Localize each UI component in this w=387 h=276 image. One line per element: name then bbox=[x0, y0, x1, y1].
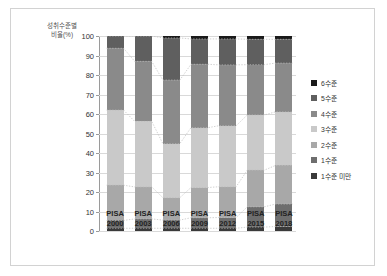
x-axis-label-line: PISA bbox=[265, 209, 303, 219]
legend: 6수준5수준4수준3수준2수준1수준1수준 미만 bbox=[311, 75, 387, 184]
bar-segment[interactable] bbox=[163, 80, 180, 144]
bar-segment[interactable] bbox=[107, 48, 124, 110]
legend-item-label: 1수준 bbox=[321, 155, 337, 165]
legend-swatch-icon bbox=[311, 95, 317, 101]
x-axis-label-line: 2018 bbox=[265, 219, 303, 229]
y-tick-mark bbox=[96, 36, 99, 37]
bar-column[interactable] bbox=[219, 36, 236, 231]
legend-item-label: 5수준 bbox=[321, 93, 337, 103]
y-tick-label: 50 bbox=[86, 129, 94, 138]
bar-segment[interactable] bbox=[275, 39, 292, 63]
bar-segment[interactable] bbox=[219, 126, 236, 187]
y-tick-label: 60 bbox=[86, 110, 94, 119]
bar-segment[interactable] bbox=[275, 165, 292, 204]
bar-segment[interactable] bbox=[191, 36, 208, 39]
bar-column[interactable] bbox=[107, 36, 124, 231]
legend-item[interactable]: 6수준 bbox=[311, 75, 387, 91]
bar-column[interactable] bbox=[275, 36, 292, 231]
y-tick-mark bbox=[96, 153, 99, 154]
bar-segment[interactable] bbox=[275, 36, 292, 39]
bar-column[interactable] bbox=[247, 36, 264, 231]
y-tick-mark bbox=[96, 231, 99, 232]
legend-item-label: 4수준 bbox=[321, 109, 337, 119]
y-tick-label: 10 bbox=[86, 207, 94, 216]
y-tick-mark bbox=[96, 114, 99, 115]
bar-segment[interactable] bbox=[275, 63, 292, 112]
bar-column[interactable] bbox=[191, 36, 208, 231]
bar-segment[interactable] bbox=[219, 39, 236, 65]
y-tick-label: 100 bbox=[81, 32, 94, 41]
bar-segment[interactable] bbox=[163, 36, 180, 38]
y-tick-label: 30 bbox=[86, 168, 94, 177]
legend-swatch-icon bbox=[311, 80, 317, 86]
gridline bbox=[99, 231, 296, 232]
bar-segment[interactable] bbox=[275, 112, 292, 166]
y-tick-mark bbox=[96, 134, 99, 135]
y-tick-mark bbox=[96, 192, 99, 193]
bar-segment[interactable] bbox=[107, 36, 124, 48]
bar-segment[interactable] bbox=[191, 39, 208, 64]
bar-segment[interactable] bbox=[135, 61, 152, 121]
legend-swatch-icon bbox=[311, 157, 317, 163]
y-tick-label: 40 bbox=[86, 149, 94, 158]
y-tick-mark bbox=[96, 173, 99, 174]
legend-item[interactable]: 2수준 bbox=[311, 137, 387, 153]
legend-item-label: 3수준 bbox=[321, 124, 337, 134]
y-tick-label: 0 bbox=[90, 227, 94, 236]
bar-column[interactable] bbox=[163, 36, 180, 231]
y-tick-mark bbox=[96, 95, 99, 96]
bar-segment[interactable] bbox=[219, 36, 236, 39]
legend-swatch-icon bbox=[311, 111, 317, 117]
bar-segment[interactable] bbox=[135, 121, 152, 187]
y-tick-mark bbox=[96, 75, 99, 76]
bar-segment[interactable] bbox=[247, 65, 264, 115]
legend-item[interactable]: 4수준 bbox=[311, 106, 387, 122]
legend-item[interactable]: 1수준 bbox=[311, 153, 387, 169]
legend-item-label: 2수준 bbox=[321, 140, 337, 150]
y-tick-label: 70 bbox=[86, 90, 94, 99]
legend-swatch-icon bbox=[311, 142, 317, 148]
y-tick-label: 20 bbox=[86, 188, 94, 197]
x-axis-label: PISA2018 bbox=[265, 209, 303, 229]
bar-segment[interactable] bbox=[107, 110, 124, 185]
y-tick-mark bbox=[96, 56, 99, 57]
bar-segment[interactable] bbox=[219, 65, 236, 126]
y-tick-label: 80 bbox=[86, 71, 94, 80]
plot-area: 0102030405060708090100 bbox=[99, 36, 296, 232]
bar-column[interactable] bbox=[135, 36, 152, 231]
chart-frame: 성취수준별 비율(%) 0102030405060708090100 PISA2… bbox=[10, 8, 375, 266]
legend-item-label: 6수준 bbox=[321, 78, 337, 88]
y-tick-label: 90 bbox=[86, 51, 94, 60]
bar-segment[interactable] bbox=[247, 36, 264, 39]
legend-item[interactable]: 1수준 미만 bbox=[311, 168, 387, 184]
bar-segment[interactable] bbox=[247, 39, 264, 64]
bar-segment[interactable] bbox=[163, 38, 180, 80]
bar-segment[interactable] bbox=[135, 36, 152, 61]
bar-segment[interactable] bbox=[191, 64, 208, 127]
legend-item-label: 1수준 미만 bbox=[321, 171, 351, 181]
bar-segment[interactable] bbox=[163, 144, 180, 198]
y-axis-title-line-1: 성취수준별 bbox=[31, 21, 93, 30]
legend-swatch-icon bbox=[311, 173, 317, 179]
legend-item[interactable]: 3수준 bbox=[311, 122, 387, 138]
legend-swatch-icon bbox=[311, 126, 317, 132]
bar-segment[interactable] bbox=[247, 170, 264, 207]
bar-segment[interactable] bbox=[191, 128, 208, 188]
legend-item[interactable]: 5수준 bbox=[311, 91, 387, 107]
bar-segment[interactable] bbox=[247, 115, 264, 170]
